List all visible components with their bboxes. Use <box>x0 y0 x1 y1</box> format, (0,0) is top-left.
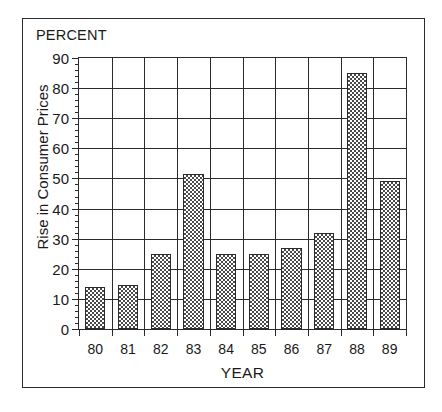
bar-chart-figure: PERCENT Rise in Consumer Prices 01020304… <box>0 0 442 412</box>
x-tick <box>341 329 342 336</box>
y-tick-label: 40 <box>52 200 69 217</box>
y-tick-major <box>72 299 79 300</box>
bar <box>183 174 203 329</box>
bar <box>347 73 367 329</box>
y-tick-major <box>72 329 79 330</box>
y-tick-major <box>72 88 79 89</box>
x-tick <box>275 329 276 336</box>
x-tick <box>243 329 244 336</box>
bar <box>314 233 334 329</box>
y-tick-major <box>72 239 79 240</box>
x-tick-label: 88 <box>349 341 365 357</box>
y-tick-major <box>72 58 79 59</box>
y-tick-major <box>72 269 79 270</box>
x-tick-label: 82 <box>153 341 169 357</box>
bar <box>85 287 105 329</box>
x-tick-label: 87 <box>316 341 332 357</box>
y-axis-title: Rise in Consumer Prices <box>32 22 54 312</box>
y-tick-label: 80 <box>52 80 69 97</box>
y-tick-label: 0 <box>61 321 69 338</box>
y-tick-major <box>72 148 79 149</box>
bar <box>249 254 269 329</box>
bar <box>151 254 171 329</box>
y-tick-label: 60 <box>52 140 69 157</box>
x-tick-label: 80 <box>88 341 104 357</box>
x-tick <box>144 329 145 336</box>
y-tick-major <box>72 209 79 210</box>
x-tick <box>406 329 407 336</box>
y-tick-label: 90 <box>52 50 69 67</box>
x-tick-label: 86 <box>284 341 300 357</box>
y-tick-label: 30 <box>52 230 69 247</box>
x-tick <box>308 329 309 336</box>
y-tick-major <box>72 178 79 179</box>
x-tick-label: 84 <box>218 341 234 357</box>
x-tick-label: 89 <box>382 341 398 357</box>
bar <box>216 254 236 329</box>
bar <box>281 248 301 329</box>
plot-area: 0102030405060708090 80818283848586878889 <box>78 57 407 330</box>
y-tick-major <box>72 118 79 119</box>
y-tick-label: 50 <box>52 170 69 187</box>
x-tick <box>177 329 178 336</box>
x-tick <box>210 329 211 336</box>
x-tick-label: 85 <box>251 341 267 357</box>
x-tick-label: 81 <box>120 341 136 357</box>
y-tick-label: 20 <box>52 260 69 277</box>
x-tick <box>112 329 113 336</box>
bar <box>118 285 138 329</box>
x-tick <box>373 329 374 336</box>
y-tick-label: 10 <box>52 290 69 307</box>
y-tick-label: 70 <box>52 110 69 127</box>
x-axis-title: YEAR <box>78 364 407 382</box>
bars-layer <box>79 58 406 329</box>
x-tick <box>79 329 80 336</box>
bar <box>380 181 400 329</box>
x-tick-label: 83 <box>186 341 202 357</box>
